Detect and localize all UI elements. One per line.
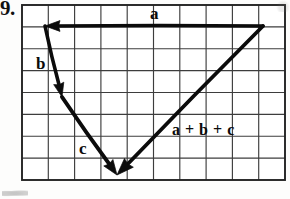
vector-addition-figure: 9. a b c a + b + c — [0, 0, 290, 199]
vector-label-b: b — [36, 55, 45, 72]
figure-canvas — [0, 0, 290, 199]
vector-label-resultant: a + b + c — [172, 122, 235, 138]
vector-label-c: c — [79, 140, 87, 157]
vector-label-a: a — [150, 5, 159, 22]
